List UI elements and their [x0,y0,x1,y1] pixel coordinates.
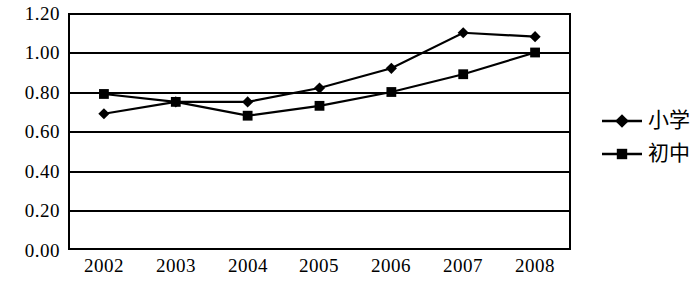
square-marker-icon [315,101,325,111]
legend-item-chuzhong: 初中 [600,137,699,170]
x-axis-labels: 2002 2003 2004 2005 2006 2007 2008 [68,254,571,282]
diamond-marker-icon [600,111,644,131]
x-axis-tick-label: 2007 [427,254,499,278]
square-marker-icon [530,48,540,58]
legend-label: 初中 [644,143,690,164]
square-marker-icon [600,144,644,164]
diamond-marker-icon [98,108,109,119]
square-marker-icon [99,89,109,99]
diamond-marker-icon [529,31,540,42]
diamond-marker-icon [242,96,253,107]
x-axis-tick-label: 2003 [140,254,212,278]
square-marker-icon [243,111,253,121]
x-axis-tick-label: 2002 [68,254,140,278]
diamond-marker-icon [386,63,397,74]
diamond-marker-icon [458,27,469,38]
x-axis-tick-label: 2004 [212,254,284,278]
legend: 小学 初中 [600,104,699,170]
square-marker-icon [171,97,181,107]
square-marker-icon [386,87,396,97]
square-marker-icon [458,69,468,79]
x-axis-tick-label: 2008 [499,254,571,278]
diamond-marker-icon [314,82,325,93]
series-layer [0,0,699,283]
x-axis-tick-label: 2006 [355,254,427,278]
legend-label: 小学 [644,110,690,131]
legend-item-xiaoxue: 小学 [600,104,699,137]
x-axis-tick-label: 2005 [283,254,355,278]
line-chart: 1.20 1.00 0.80 0.60 0.40 0.20 0.00 2002 … [0,0,699,283]
